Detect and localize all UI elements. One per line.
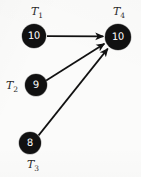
node-t2-value: 9 [33, 80, 39, 90]
node-t4-value: 10 [112, 32, 124, 42]
edge-t2-t4 [46, 44, 104, 81]
node-t3[interactable]: 8 [19, 132, 41, 154]
node-t2-label: T2 [6, 79, 18, 94]
node-t4-label: T4 [113, 5, 125, 20]
node-t1-label: T1 [31, 5, 43, 20]
edge-t3-t4 [39, 49, 108, 136]
node-t1-value: 10 [28, 31, 40, 41]
node-t1[interactable]: 10 [22, 24, 46, 48]
node-t3-label: T3 [27, 158, 39, 173]
node-t2[interactable]: 9 [25, 74, 47, 96]
diagram-canvas: 10 T1 9 T2 8 T3 10 T4 [0, 0, 141, 177]
node-t4[interactable]: 10 [105, 24, 131, 50]
node-t3-value: 8 [27, 138, 33, 148]
